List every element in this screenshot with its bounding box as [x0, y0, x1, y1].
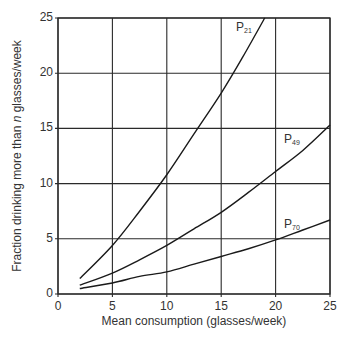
- y-tick-label: 25: [40, 10, 53, 24]
- x-tick-label: 15: [215, 299, 228, 313]
- x-axis-label: Mean consumption (glasses/week): [102, 314, 287, 328]
- y-axis-label-part3: glasses/week: [10, 40, 24, 115]
- y-tick-label: 10: [40, 176, 53, 190]
- plot-frame: [58, 18, 330, 294]
- y-tick-label: 15: [40, 120, 53, 134]
- y-tick-label: 0: [46, 286, 53, 300]
- series-label-p49: P49: [284, 132, 300, 146]
- x-tick-label: 5: [109, 299, 116, 313]
- x-tick-label: 25: [323, 299, 336, 313]
- x-tick-label: 10: [160, 299, 173, 313]
- y-axis-label-part1: Fraction drinking more than: [10, 122, 24, 271]
- x-tick-label: 20: [269, 299, 282, 313]
- y-axis-label-n: n: [10, 116, 24, 123]
- y-tick-label: 5: [46, 231, 53, 245]
- grid-lines: [55, 18, 330, 297]
- series-lines: [80, 18, 330, 288]
- series-line-p21: [80, 18, 265, 279]
- series-label-p70: P70: [284, 217, 300, 231]
- x-tick-label: 0: [55, 299, 62, 313]
- y-axis-label: Fraction drinking more than n glasses/we…: [10, 40, 24, 271]
- y-tick-label: 20: [40, 65, 53, 79]
- series-label-p21: P21: [236, 20, 252, 34]
